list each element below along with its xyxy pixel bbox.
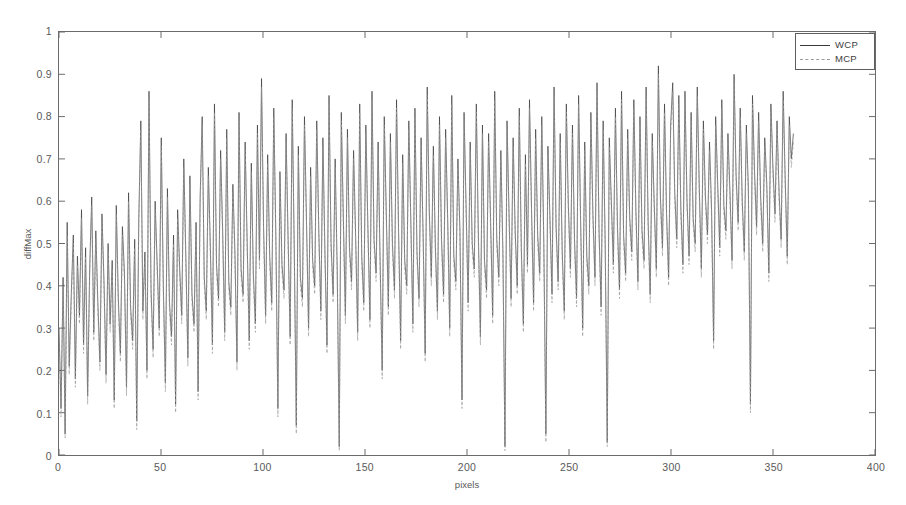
y-tick-label: 1 <box>6 25 52 37</box>
plot-area <box>58 31 876 456</box>
legend-swatch-mcp <box>800 59 830 60</box>
chart-lines <box>59 32 875 455</box>
y-tick-label: 0.6 <box>6 195 52 207</box>
y-tick-label: 0.2 <box>6 365 52 377</box>
x-tick-label: 0 <box>55 461 61 473</box>
y-axis-tick-labels: 00.10.20.30.40.50.60.70.80.91 <box>0 31 52 456</box>
x-tick-label: 300 <box>662 461 680 473</box>
y-tick-label: 0.1 <box>6 408 52 420</box>
series-line-wcp <box>59 66 793 447</box>
y-tick-label: 0.9 <box>6 68 52 80</box>
legend-label-mcp: MCP <box>835 54 857 64</box>
y-tick-label: 0.3 <box>6 323 52 335</box>
x-tick-label: 200 <box>458 461 476 473</box>
x-tick-label: 50 <box>154 461 166 473</box>
y-tick-label: 0.4 <box>6 280 52 292</box>
legend-label-wcp: WCP <box>835 40 858 50</box>
x-axis-tick-labels: 050100150200250300350400 <box>58 461 876 477</box>
legend-item-mcp: MCP <box>800 52 870 66</box>
x-tick-label: 400 <box>867 461 885 473</box>
y-tick-label: 0.5 <box>6 238 52 250</box>
y-tick-label: 0.7 <box>6 153 52 165</box>
legend-swatch-wcp <box>800 45 830 46</box>
x-tick-label: 100 <box>253 461 271 473</box>
legend-item-wcp: WCP <box>800 38 870 52</box>
y-tick-label: 0.8 <box>6 110 52 122</box>
x-tick-label: 350 <box>765 461 783 473</box>
y-tick-label: 0 <box>6 450 52 462</box>
x-tick-label: 150 <box>356 461 374 473</box>
legend-box: WCP MCP <box>795 33 875 70</box>
x-axis-title: pixels <box>58 479 876 490</box>
x-tick-label: 250 <box>560 461 578 473</box>
figure-canvas: diffMax 00.10.20.30.40.50.60.70.80.91 05… <box>0 0 906 505</box>
